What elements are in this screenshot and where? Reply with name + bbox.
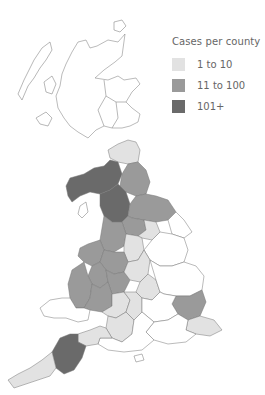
island-orkney [114,20,126,32]
legend-swatch-low [172,58,185,71]
legend-item-mid: 11 to 100 [172,78,265,92]
legend-label-mid: 11 to 100 [197,80,245,91]
legend-label-low: 1 to 10 [197,59,232,70]
island-isle-of-wight [134,354,144,362]
legend-swatch-mid [172,79,185,92]
island-hebrides [18,42,52,100]
legend-swatch-high [172,100,185,113]
legend-item-high: 101+ [172,99,265,113]
region-scotland [56,34,140,138]
legend: Cases per county 1 to 10 11 to 100 101+ [172,36,265,120]
region-cornwall [8,352,56,388]
island-skye [44,76,56,94]
island-mull [36,112,52,126]
region-north-yorkshire [128,194,176,222]
legend-title: Cases per county [172,36,265,47]
region-northumberland [108,140,140,164]
legend-label-high: 101+ [197,101,224,112]
legend-item-low: 1 to 10 [172,57,265,71]
island-isle-of-man [78,202,88,218]
